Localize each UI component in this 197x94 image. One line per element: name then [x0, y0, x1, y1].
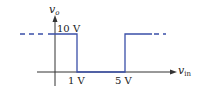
- threshold-low-label: 1 V: [68, 75, 86, 86]
- high-level-label: 10 V: [57, 23, 81, 34]
- y-axis-label: vo: [49, 3, 59, 17]
- transfer-characteristic-diagram: vo 10 V 1 V 5 V vin: [0, 0, 197, 94]
- x-axis-label: vin: [178, 64, 191, 78]
- curve-solid: [48, 34, 152, 72]
- transfer-curve: [20, 34, 166, 72]
- x-axis-arrow-icon: [170, 70, 177, 75]
- threshold-high-label: 5 V: [115, 75, 133, 86]
